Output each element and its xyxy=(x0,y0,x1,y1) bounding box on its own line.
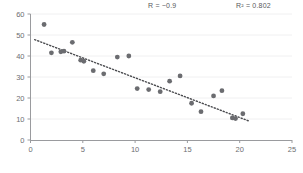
x-tick-label: 20 xyxy=(236,145,244,154)
data-point xyxy=(81,59,86,64)
x-tick-label: 5 xyxy=(81,145,85,154)
data-points xyxy=(42,22,246,121)
y-axis-ticks: 0102030405060 xyxy=(16,10,30,145)
y-tick-label: 40 xyxy=(16,52,24,61)
x-tick-label: 25 xyxy=(288,145,296,154)
data-point xyxy=(70,40,75,45)
data-point xyxy=(42,22,47,27)
data-point xyxy=(101,71,106,76)
data-point xyxy=(199,109,204,114)
y-tick-label: 0 xyxy=(20,136,24,145)
scatter-chart: R = −0.9 R² = 0.802 0102030405060 051015… xyxy=(0,0,303,173)
data-point xyxy=(135,86,140,91)
data-point xyxy=(126,54,131,59)
plot-area: 0102030405060 0510152025 xyxy=(0,0,303,173)
data-point xyxy=(91,68,96,73)
data-point xyxy=(240,111,245,116)
trendline xyxy=(35,40,249,121)
data-point xyxy=(233,116,238,121)
data-point xyxy=(49,50,54,55)
y-tick-label: 60 xyxy=(16,10,24,19)
data-point xyxy=(158,89,163,94)
y-tick-label: 30 xyxy=(16,73,24,82)
data-point xyxy=(189,101,194,106)
y-tick-label: 20 xyxy=(16,94,24,103)
y-tick-label: 10 xyxy=(16,115,24,124)
data-point xyxy=(211,94,216,99)
data-point xyxy=(178,74,183,79)
x-tick-label: 15 xyxy=(183,145,191,154)
gridlines xyxy=(31,14,293,119)
data-point xyxy=(146,87,151,92)
y-tick-label: 50 xyxy=(16,31,24,40)
x-tick-label: 10 xyxy=(131,145,139,154)
data-point xyxy=(62,49,67,54)
x-tick-label: 0 xyxy=(28,145,32,154)
data-point xyxy=(220,88,225,93)
trendline-path xyxy=(35,40,249,121)
data-point xyxy=(167,79,172,84)
x-axis-ticks: 0510152025 xyxy=(28,140,296,154)
data-point xyxy=(115,55,120,60)
